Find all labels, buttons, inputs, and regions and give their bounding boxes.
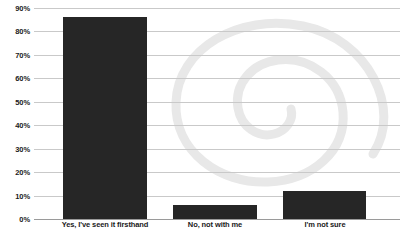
ytick-label-60: 60% <box>0 75 30 83</box>
ytick-label-0: 0% <box>0 216 30 224</box>
ytick-label-10: 10% <box>0 193 30 201</box>
bars-layer <box>34 8 400 219</box>
bar-no-not-with-me <box>173 205 257 219</box>
x-axis: Yes, I've seen it firsthand No, not with… <box>34 221 400 237</box>
ytick-label-90: 90% <box>0 5 30 13</box>
xlabel-im-not-sure: I'm not sure <box>256 221 394 229</box>
ytick-label-20: 20% <box>0 169 30 177</box>
ytick-label-50: 50% <box>0 99 30 107</box>
ytick-label-40: 40% <box>0 122 30 130</box>
ytick-label-70: 70% <box>0 52 30 60</box>
bar-im-not-sure <box>283 191 366 219</box>
ytick-label-30: 30% <box>0 146 30 154</box>
ytick-label-80: 80% <box>0 28 30 36</box>
bar-yes-seen-firsthand <box>63 17 147 219</box>
bar-chart: 90% 80% 70% 60% 50% 40% 30% 20% 10% 0% Y… <box>0 0 409 237</box>
